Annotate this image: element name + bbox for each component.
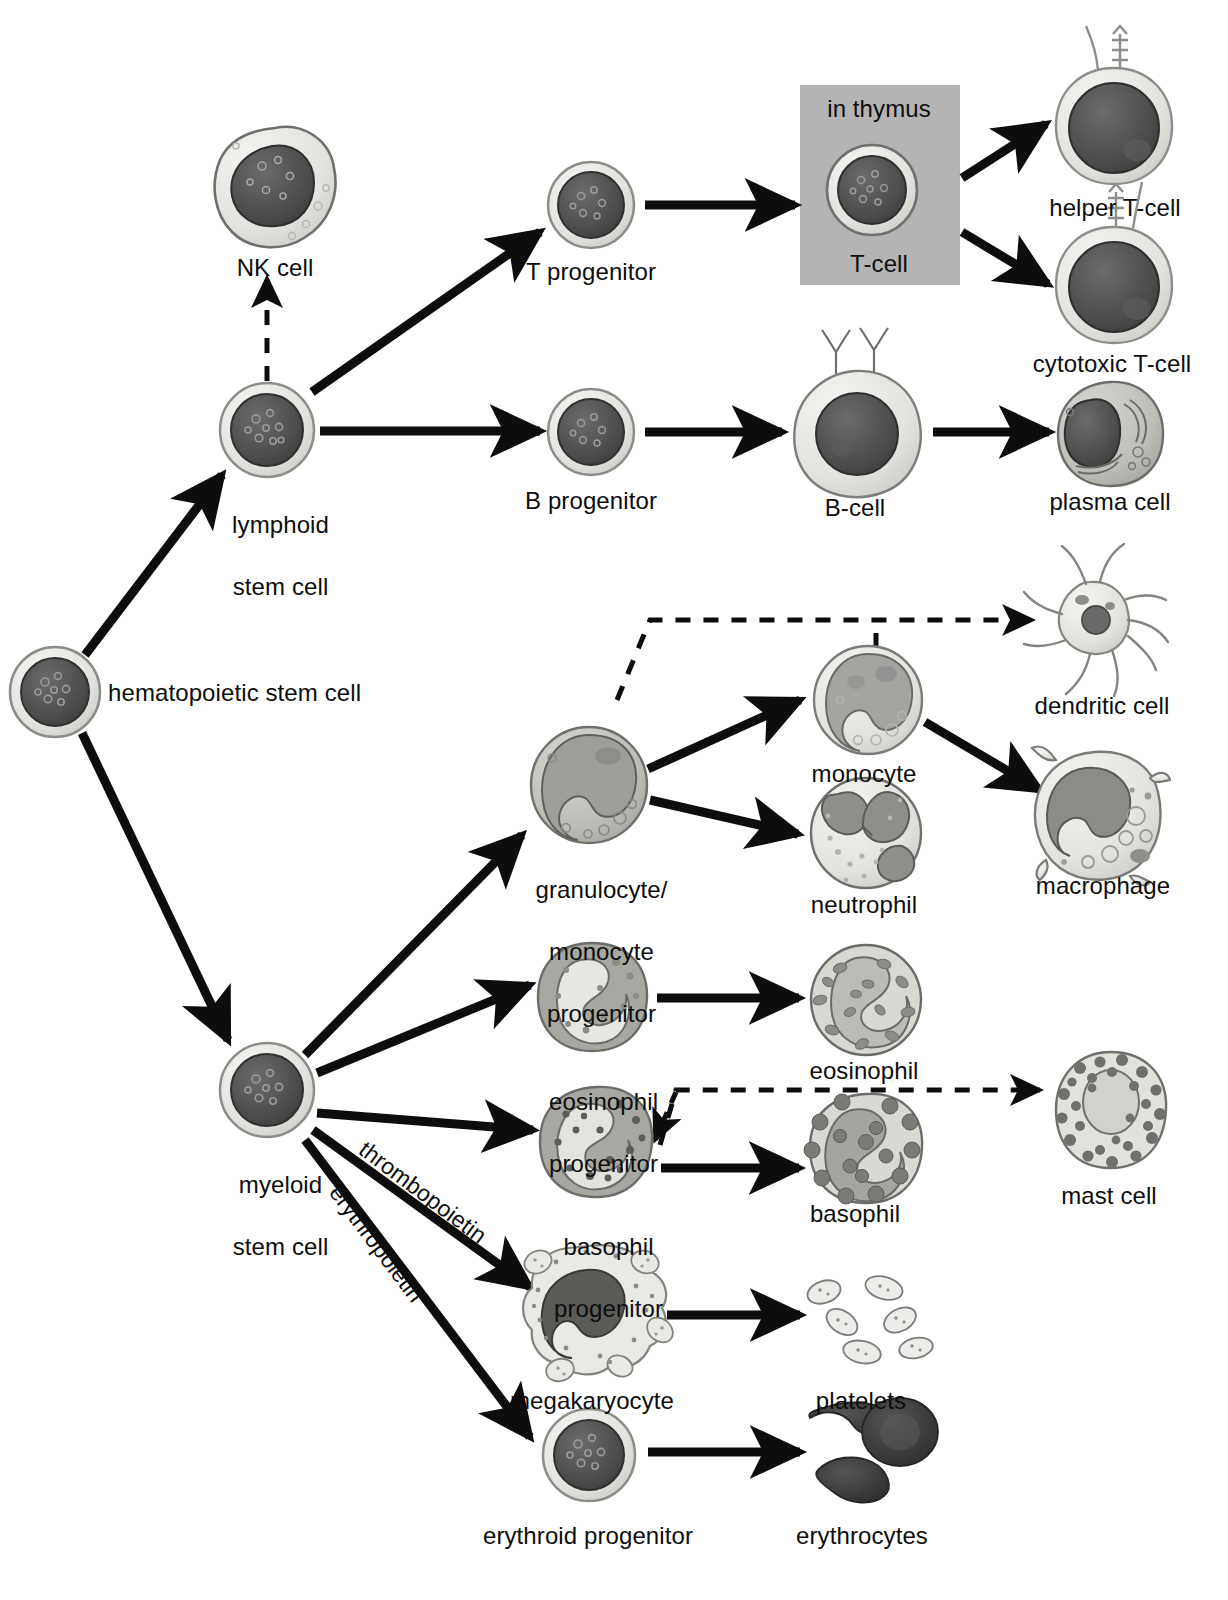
cell-helper-t-cell: [1056, 26, 1172, 184]
label-helper-t-cell: helper T-cell: [1049, 192, 1181, 223]
cell-monocyte: [814, 646, 922, 754]
label-in-thymus: in thymus: [827, 93, 931, 124]
cell-basophil: [804, 1094, 922, 1204]
label-neutrophil: neutrophil: [811, 889, 917, 920]
label-macrophage: macrophage: [1036, 870, 1170, 901]
label-t-progenitor: T progenitor: [526, 256, 656, 287]
cell-granulocyte-monocyte-progenitor: [531, 727, 647, 843]
cell-t-cell: [827, 145, 917, 235]
label-monocyte: monocyte: [812, 758, 917, 789]
label-hematopoietic-stem-cell: hematopoietic stem cell: [108, 677, 361, 708]
label-b-cell: B-cell: [825, 492, 886, 523]
label-basophil: basophil: [810, 1198, 900, 1229]
label-megakaryocyte: megakaryocyte: [510, 1385, 674, 1416]
label-gm-line3: progenitor: [547, 1000, 656, 1027]
label-eosinophil-progenitor: eosinophil progenitor: [522, 1055, 658, 1210]
label-basprog-line1: basophil: [563, 1233, 653, 1260]
label-b-progenitor: B progenitor: [525, 485, 657, 516]
label-dendritic-cell: dendritic cell: [1035, 690, 1170, 721]
label-lymphoid-stem-cell: lymphoid stem cell: [205, 478, 329, 633]
label-platelets: platelets: [816, 1385, 906, 1416]
cell-b-progenitor: [548, 389, 634, 475]
cell-hematopoietic-stem-cell: [10, 647, 100, 737]
label-lymphoid-line1: lymphoid: [232, 511, 329, 538]
label-basophil-progenitor: basophil progenitor: [527, 1200, 663, 1355]
cell-b-cell: [794, 328, 920, 497]
label-myeloid-stem-cell: myeloid stem cell: [206, 1138, 329, 1293]
label-lymphoid-line2: stem cell: [233, 573, 329, 600]
label-cytotoxic-t-cell: cytotoxic T-cell: [1033, 348, 1192, 379]
label-nk-cell: NK cell: [237, 252, 314, 283]
label-t-cell: T-cell: [850, 248, 908, 279]
cell-lymphoid-stem-cell: [220, 383, 314, 477]
cell-erythroid-progenitor: [543, 1409, 635, 1501]
label-gm-line1: granulocyte/: [536, 876, 668, 903]
label-plasma-cell: plasma cell: [1049, 486, 1170, 517]
label-erythrocytes: erythrocytes: [796, 1520, 928, 1551]
diagram-graphics: [0, 0, 1228, 1600]
label-myeloid-line1: myeloid: [239, 1171, 322, 1198]
cell-t-progenitor: [548, 162, 634, 248]
label-eosprog-line1: eosinophil: [549, 1088, 658, 1115]
label-eosprog-line2: progenitor: [549, 1150, 658, 1177]
cell-mast-cell: [1056, 1052, 1166, 1168]
cell-platelets: [804, 1272, 934, 1367]
label-mast-cell: mast cell: [1061, 1180, 1157, 1211]
label-eosinophil: eosinophil: [809, 1055, 918, 1086]
cell-macrophage: [1032, 747, 1170, 886]
cell-nk-cell: [215, 127, 336, 247]
cell-plasma-cell: [1058, 382, 1163, 486]
cell-myeloid-stem-cell: [220, 1043, 314, 1137]
cell-eosinophil: [811, 945, 921, 1055]
label-granulocyte-monocyte-progenitor: granulocyte/ monocyte progenitor: [508, 843, 667, 1060]
cell-neutrophil: [811, 778, 921, 888]
label-myeloid-line2: stem cell: [233, 1233, 329, 1260]
label-erythroid-progenitor: erythroid progenitor: [483, 1520, 693, 1551]
hematopoiesis-diagram: hematopoietic stem cell lymphoid stem ce…: [0, 0, 1228, 1600]
label-gm-line2: monocyte: [549, 938, 654, 965]
label-basprog-line2: progenitor: [554, 1295, 663, 1322]
cell-dendritic-cell: [1024, 544, 1168, 696]
